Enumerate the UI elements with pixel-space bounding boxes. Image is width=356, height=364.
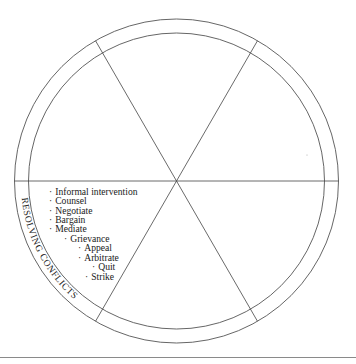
conflict-wheel-diagram: RESOLVING CONFLICTS ·Informal interventi… bbox=[0, 0, 356, 364]
list-item: ·Strike bbox=[85, 271, 114, 282]
segment-item-list: ·Informal intervention ·Counsel ·Negotia… bbox=[49, 186, 138, 282]
speck-mark bbox=[307, 155, 308, 156]
